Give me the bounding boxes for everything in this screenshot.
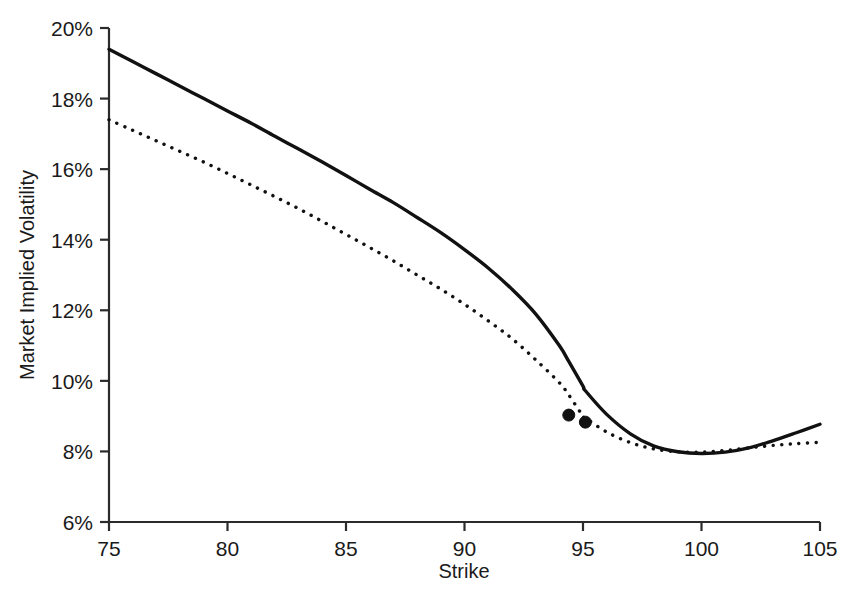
x-tick-label: 100 (684, 537, 719, 560)
y-tick-label: 20% (51, 17, 93, 40)
chart-canvas: 6%8%10%12%14%16%18%20% 7580859095100105 … (0, 0, 852, 600)
x-tick-label: 85 (334, 537, 357, 560)
x-tick-label: 80 (216, 537, 239, 560)
y-tick-label: 18% (51, 88, 93, 111)
chart-background (0, 0, 852, 600)
x-tick-label: 95 (571, 537, 594, 560)
y-tick-label: 10% (51, 370, 93, 393)
x-tick-label: 75 (97, 537, 120, 560)
y-axis-title: Market Implied Volatility (16, 170, 38, 380)
x-tick-label: 90 (453, 537, 476, 560)
y-tick-label: 16% (51, 158, 93, 181)
y-tick-label: 12% (51, 299, 93, 322)
y-tick-label: 6% (63, 511, 93, 534)
x-axis-title: Strike (438, 560, 489, 582)
x-tick-label: 105 (802, 537, 837, 560)
implied-volatility-chart: 6%8%10%12%14%16%18%20% 7580859095100105 … (0, 0, 852, 600)
y-tick-label: 14% (51, 229, 93, 252)
y-tick-label: 8% (63, 440, 93, 463)
crossing-marker-1 (563, 409, 575, 421)
crossing-marker-2 (579, 416, 591, 428)
